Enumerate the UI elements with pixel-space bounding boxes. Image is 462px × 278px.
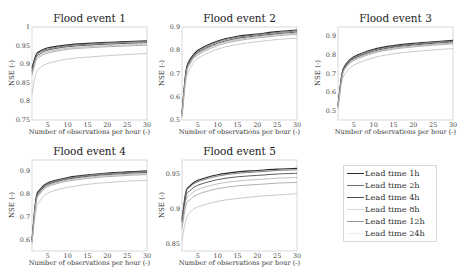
legend-line-2h [347, 185, 364, 186]
legend-item: Lead time 4h [344, 191, 438, 203]
legend-label: Lead time 4h [365, 191, 420, 203]
legend-line-8h [347, 209, 364, 210]
legend-line-24h [347, 233, 364, 234]
legend-item: Lead time 1h [344, 167, 438, 179]
legend-label: Lead time 2h [365, 179, 420, 191]
legend-item: Lead time 24h [344, 227, 438, 239]
legend-label: Lead time 24h [365, 227, 425, 239]
legend: Lead time 1h Lead time 2h Lead time 4h L… [343, 165, 437, 242]
legend-label: Lead time 8h [365, 203, 420, 215]
series-line [182, 182, 297, 228]
legend-line-12h [347, 221, 364, 222]
series-line [182, 194, 297, 241]
legend-item: Lead time 8h [344, 203, 438, 215]
legend-line-4h [347, 197, 364, 198]
legend-label: Lead time 1h [365, 167, 420, 179]
x-tick-label: 30 [292, 252, 302, 260]
legend-item: Lead time 12h [344, 215, 438, 227]
series-line [182, 170, 297, 221]
y-tick-label: 0.95 [160, 170, 180, 178]
y-tick-label: 0.85 [160, 240, 180, 248]
legend-item: Lead time 2h [344, 179, 438, 191]
x-tick-label: 5 [193, 252, 203, 260]
x-tick-label: 10 [213, 252, 223, 260]
legend-line-1h [347, 173, 364, 174]
x-tick-label: 25 [272, 252, 282, 260]
y-tick-label: 0.9 [160, 205, 180, 213]
legend-label: Lead time 12h [365, 215, 425, 227]
x-tick-label: 20 [252, 252, 262, 260]
x-tick-label: 15 [233, 252, 243, 260]
